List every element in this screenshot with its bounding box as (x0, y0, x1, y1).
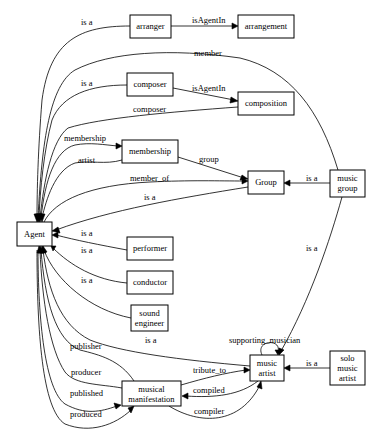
svg-text:music: music (337, 173, 358, 183)
edge-label-compiled: compiled (193, 385, 225, 395)
node-music-artist: music artist (250, 355, 284, 381)
svg-text:musical: musical (138, 384, 165, 394)
svg-text:membership: membership (129, 146, 171, 156)
node-conductor: conductor (127, 271, 173, 294)
node-composition: composition (238, 92, 294, 115)
edge-label-supporting-musician: supporting_musician (229, 335, 301, 345)
svg-text:conductor: conductor (133, 277, 167, 287)
svg-text:arranger: arranger (136, 21, 164, 31)
svg-text:artist: artist (259, 368, 277, 378)
edge-musicgroup-is-a-artist (279, 197, 342, 355)
node-solo-music-artist: solo music artist (330, 351, 365, 385)
edge-label-conductor-is-a: is a (81, 245, 93, 255)
svg-text:sound: sound (139, 308, 160, 318)
ontology-diagram: is a isAgentIn member is a isAgentIn com… (0, 0, 382, 440)
node-arranger: arranger (130, 15, 171, 38)
edge-label-group: group (199, 154, 219, 164)
edge-label-musicartist-is-a: is a (145, 335, 157, 345)
edge-composition-composer (37, 107, 238, 222)
edge-label-compiler: compiler (194, 406, 224, 416)
edge-label-member: member (194, 48, 222, 58)
node-sound-engineer: sound engineer (131, 305, 168, 331)
edge-label-produced: produced (70, 409, 102, 419)
edge-label-membership: membership (64, 133, 106, 143)
edge-label-published: published (70, 388, 104, 398)
svg-text:performer: performer (133, 243, 167, 253)
svg-text:engineer: engineer (135, 318, 164, 328)
node-membership: membership (122, 140, 178, 163)
node-performer: performer (127, 237, 173, 260)
edge-label-producer: producer (71, 367, 101, 377)
node-agent: Agent (17, 222, 52, 246)
edge-label-arranger-is-a: is a (81, 17, 93, 27)
edge-label-musicgroup-is-a-artist: is a (306, 243, 318, 253)
svg-text:arrangement: arrangement (245, 21, 288, 31)
node-musical-manifestation: musical manifestation (122, 381, 181, 406)
svg-text:music: music (337, 363, 358, 373)
svg-text:composition: composition (245, 98, 288, 108)
edge-label-artist: artist (78, 155, 96, 165)
svg-text:group: group (338, 183, 358, 193)
svg-text:Group: Group (255, 177, 277, 187)
edge-label-tribute-to: tribute_to (193, 365, 226, 375)
edge-label-composer: composer (133, 104, 166, 114)
svg-text:manifestation: manifestation (128, 394, 175, 404)
node-music-group: music group (330, 170, 365, 197)
edge-composer-is-a (36, 85, 127, 222)
svg-text:solo: solo (340, 353, 354, 363)
edge-label-arranger-isagentin: isAgentIn (192, 15, 226, 25)
edge-label-musicgroup-is-a-group: is a (306, 173, 318, 183)
edge-label-group-is-a: is a (144, 192, 156, 202)
svg-text:artist: artist (339, 373, 357, 383)
edge-label-performer-is-a: is a (81, 228, 93, 238)
svg-text:music: music (257, 358, 278, 368)
edge-label-composer-is-a: is a (81, 78, 93, 88)
edge-label-composer-isagentin: isAgentIn (192, 83, 226, 93)
edge-label-soundengineer-is-a: is a (81, 275, 93, 285)
svg-text:Agent: Agent (24, 229, 45, 239)
node-composer: composer (127, 73, 173, 96)
edge-label-member-of: member_of (130, 173, 169, 183)
edge-label-solo-is-a: is a (306, 358, 318, 368)
svg-text:composer: composer (133, 79, 166, 89)
node-arrangement: arrangement (238, 15, 294, 38)
edge-label-publisher: publisher (70, 341, 102, 351)
node-group: Group (248, 171, 284, 194)
